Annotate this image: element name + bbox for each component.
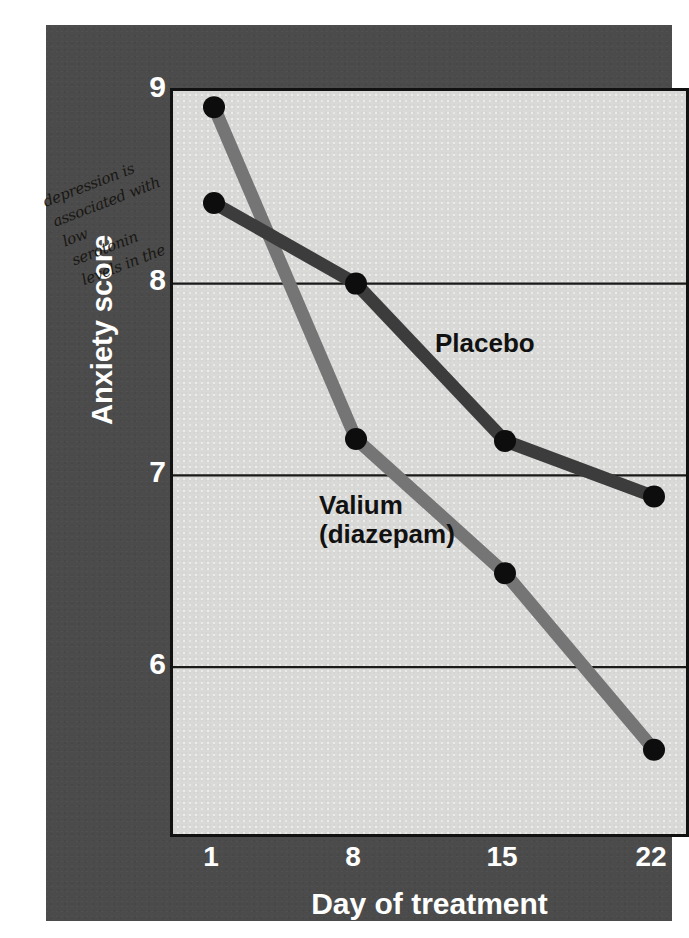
- x-tick-1: 1: [203, 843, 219, 871]
- data-point-placebo-day15: [494, 430, 516, 452]
- y-tick-7: 7: [120, 457, 166, 487]
- data-point-valium-day22: [643, 739, 665, 761]
- series-line-valium: [214, 107, 654, 750]
- plot-area: Placebo Valium (diazepam): [170, 88, 689, 837]
- data-point-valium-day1: [203, 96, 225, 118]
- x-axis-tick-labels: 1 8 15 22: [170, 843, 689, 883]
- x-tick-22: 22: [635, 843, 666, 871]
- y-tick-9: 9: [120, 72, 166, 102]
- series-label-placebo: Placebo: [435, 329, 535, 358]
- data-point-placebo-day1: [203, 192, 225, 214]
- chart-panel: 9 8 7 6 Anxiety score Placebo Valium (di…: [46, 25, 672, 921]
- series-lines: [214, 107, 654, 750]
- series-label-valium: Valium (diazepam): [319, 491, 455, 549]
- series-line-placebo: [214, 203, 654, 496]
- y-tick-8: 8: [120, 265, 166, 295]
- data-point-placebo-day22: [643, 485, 665, 507]
- data-point-placebo-day8: [345, 273, 367, 295]
- x-tick-8: 8: [345, 843, 361, 871]
- x-axis-title: Day of treatment: [170, 887, 689, 921]
- y-tick-6: 6: [120, 649, 166, 679]
- y-axis-title: Anxiety score: [86, 125, 119, 425]
- data-point-markers: [203, 96, 665, 761]
- plot-svg: [173, 91, 686, 834]
- data-point-valium-day8: [345, 428, 367, 450]
- data-point-valium-day15: [494, 562, 516, 584]
- x-tick-15: 15: [486, 843, 517, 871]
